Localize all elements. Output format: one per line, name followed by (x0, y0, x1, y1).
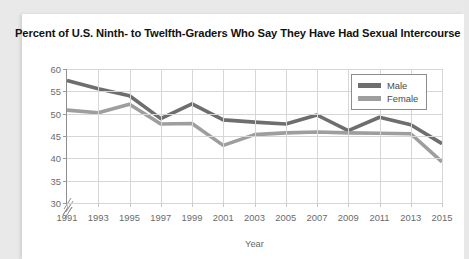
y-tick-label: 35 (51, 175, 61, 186)
x-tick-mark (380, 203, 381, 207)
x-tick-label: 2013 (400, 212, 421, 223)
x-tick-mark (67, 203, 68, 207)
x-tick-mark (223, 203, 224, 207)
x-tick-mark (442, 203, 443, 207)
legend-item-male: Male (358, 79, 418, 92)
x-tick-label: 2007 (307, 212, 328, 223)
x-tick-mark (192, 203, 193, 207)
gridline-vertical (442, 69, 443, 203)
x-tick-mark (411, 203, 412, 207)
x-tick-label: 2011 (369, 212, 389, 223)
y-tick-label: 40 (51, 153, 61, 164)
legend-swatch-female (358, 96, 381, 101)
legend-label-female: Female (387, 94, 418, 103)
y-tick-label: 55 (51, 86, 61, 97)
x-tick-mark (286, 203, 287, 207)
x-tick-label: 1999 (182, 212, 203, 223)
x-tick-label: 2015 (432, 212, 453, 223)
legend-label-male: Male (387, 81, 407, 90)
x-tick-label: 2005 (275, 212, 296, 223)
chart-title: Percent of U.S. Ninth- to Twelfth-Grader… (15, 27, 469, 39)
x-tick-mark (130, 203, 131, 207)
gridline-vertical (223, 69, 224, 203)
gridline-vertical (348, 69, 349, 203)
x-tick-mark (317, 203, 318, 207)
y-tick-mark (63, 136, 67, 137)
gridline-vertical (317, 69, 318, 203)
gridline-vertical (255, 69, 256, 203)
legend-item-female: Female (358, 92, 418, 105)
y-tick-label: 50 (51, 108, 61, 119)
y-tick-mark (63, 181, 67, 182)
legend-swatch-male (358, 83, 381, 88)
y-tick-mark (63, 69, 67, 70)
x-tick-mark (98, 203, 99, 207)
x-tick-mark (161, 203, 162, 207)
y-tick-label: 45 (51, 131, 61, 142)
x-tick-mark (255, 203, 256, 207)
y-tick-mark (63, 158, 67, 159)
gridline-vertical (98, 69, 99, 203)
chart-legend: Male Female (351, 74, 427, 110)
x-tick-label: 2009 (338, 212, 359, 223)
x-tick-mark (348, 203, 349, 207)
y-tick-label: 30 (51, 198, 61, 209)
y-tick-mark (63, 91, 67, 92)
x-tick-label: 1991 (57, 212, 78, 223)
gridline-vertical (161, 69, 162, 203)
gridline-vertical (130, 69, 131, 203)
gridline-vertical (192, 69, 193, 203)
y-tick-mark (63, 114, 67, 115)
x-tick-label: 1997 (150, 212, 171, 223)
gridline-vertical (286, 69, 287, 203)
x-tick-label: 2001 (213, 212, 234, 223)
x-tick-label: 1995 (119, 212, 140, 223)
x-tick-label: 2003 (244, 212, 265, 223)
x-tick-label: 1993 (88, 212, 109, 223)
x-axis-title: Year (67, 238, 442, 249)
y-tick-label: 60 (51, 64, 61, 75)
